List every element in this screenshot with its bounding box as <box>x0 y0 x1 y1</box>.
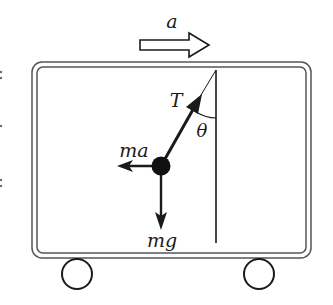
pendulum-bob <box>152 157 171 176</box>
right-wheel <box>244 259 274 289</box>
weight-label: mg <box>147 229 177 251</box>
weight-arrow <box>155 166 167 230</box>
angle-arc <box>196 112 216 118</box>
tension-label: T <box>170 89 184 111</box>
acceleration-arrow <box>140 33 209 57</box>
angle-label: θ <box>197 120 208 141</box>
cropped-edge-fragments <box>0 71 2 187</box>
acceleration-label: a <box>166 10 177 32</box>
cart-pendulum-diagram: a T θ ma mg <box>0 0 333 305</box>
left-wheel <box>62 259 92 289</box>
pseudo-force-label: ma <box>119 139 148 161</box>
